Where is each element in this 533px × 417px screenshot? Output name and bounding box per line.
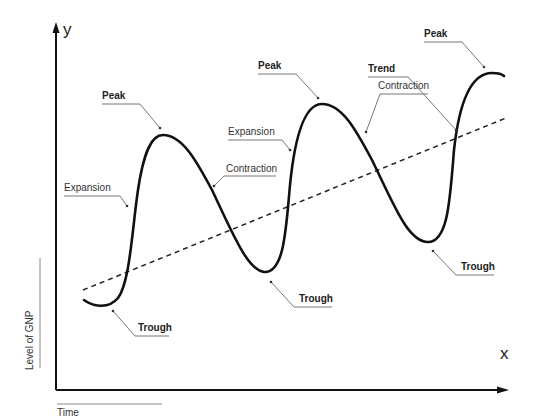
peak-1-label: Peak <box>102 91 125 101</box>
peak-2-dot <box>317 97 320 100</box>
peak-1-dot <box>159 127 162 130</box>
trough-2-dot <box>270 281 273 284</box>
x-axis-arrow-icon <box>497 387 509 394</box>
x-axis-title: Time <box>57 408 79 417</box>
peak-1-leader <box>102 104 160 128</box>
peak-2-leader <box>258 74 318 98</box>
trend-line <box>83 118 506 290</box>
business-cycle-curve <box>84 73 504 306</box>
trough-1-label: Trough <box>138 323 172 333</box>
peak-3-leader <box>424 42 484 67</box>
expansion-2-leader <box>228 140 290 150</box>
contraction-2-label: Contraction <box>378 81 429 91</box>
expansion-1-leader <box>64 196 127 206</box>
expansion-1-label: Expansion <box>64 183 111 193</box>
x-axis-letter: x <box>500 345 509 362</box>
trough-2-label: Trough <box>299 294 333 304</box>
contraction-2-dot <box>365 131 368 134</box>
contraction-1-dot <box>213 185 216 188</box>
expansion-1-dot <box>126 205 129 208</box>
trough-1-dot <box>112 310 115 313</box>
expansion-2-dot <box>289 149 292 152</box>
y-axis-title: Level of GNP <box>24 311 35 370</box>
expansion-2-label: Expansion <box>228 127 275 137</box>
y-axis-arrow-icon <box>53 22 60 33</box>
contraction-1-leader-visible <box>214 176 276 186</box>
contraction-1-label: Contraction <box>226 164 277 174</box>
trough-3-label: Trough <box>461 262 495 272</box>
peak-2-label: Peak <box>258 61 281 71</box>
trough-3-dot <box>432 250 435 253</box>
trend-label: Trend <box>368 64 395 74</box>
peak-3-label: Peak <box>424 29 447 39</box>
peak-3-dot <box>483 66 486 69</box>
contraction-2-leader <box>366 94 428 132</box>
trend-dot <box>455 129 458 132</box>
y-axis-letter: y <box>63 21 72 38</box>
